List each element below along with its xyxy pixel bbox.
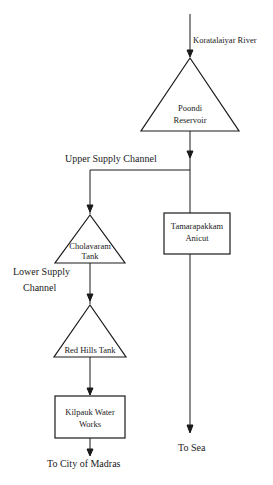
lower-channel-label-line1: Lower Supply	[13, 267, 70, 277]
cholavaram-label-line1: Cholavaram	[60, 242, 120, 251]
tamarapakkam-label-line1: Tamarapakkam	[164, 222, 230, 231]
lower-channel-label-line2: Channel	[23, 283, 56, 293]
to-sea-label: To Sea	[178, 443, 205, 453]
arrow-icon	[187, 50, 193, 57]
upper-channel-label: Upper Supply Channel	[65, 154, 157, 164]
kilpauk-label-line1: Kilpauk Water	[55, 408, 125, 417]
arrow-icon	[87, 388, 93, 395]
to-city-label: To City of Madras	[47, 459, 120, 469]
kilpauk-label-line2: Works	[55, 420, 125, 429]
tamarapakkam-label-line2: Anicut	[164, 234, 230, 243]
arrow-icon	[87, 449, 93, 456]
arrow-icon	[87, 294, 93, 301]
flow-diagram	[0, 0, 273, 485]
source-label: Koratalaiyar River	[193, 36, 256, 45]
poondi-label-line1: Poondi	[160, 104, 220, 113]
red-hills-label: Red Hills Tank	[55, 346, 125, 355]
arrow-icon	[87, 205, 93, 212]
arrow-icon	[187, 151, 193, 158]
poondi-label-line2: Reservoir	[160, 116, 220, 125]
arrow-icon	[187, 425, 193, 433]
kilpauk-water-works-shape	[55, 396, 125, 438]
cholavaram-label-line2: Tank	[60, 252, 120, 261]
